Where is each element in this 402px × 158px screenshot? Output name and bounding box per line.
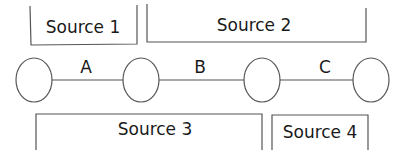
source-edge-diagram: Source 1 Source 2 A B C Source 3 Source … [0,0,402,158]
source-4-label: Source 4 [283,122,358,142]
source-4-box: Source 4 [272,115,368,150]
edges: A B C [52,57,353,80]
source-2-box: Source 2 [147,4,366,42]
node-4-circle [353,58,389,102]
source-3-box: Source 3 [36,114,262,150]
source-2-label: Source 2 [217,15,292,35]
source-1-label: Source 1 [46,17,121,37]
node-3-circle [244,58,280,102]
source-1-box: Source 1 [30,5,137,45]
edge-c-label: C [319,57,331,77]
node-2-circle [123,58,159,102]
source-3-label: Source 3 [118,119,193,139]
edge-b-label: B [194,57,206,77]
node-1-circle [16,58,52,102]
edge-a-label: A [80,57,92,77]
